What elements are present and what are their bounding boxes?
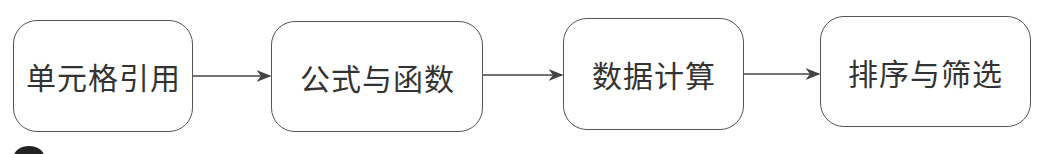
edges (0, 0, 1040, 154)
